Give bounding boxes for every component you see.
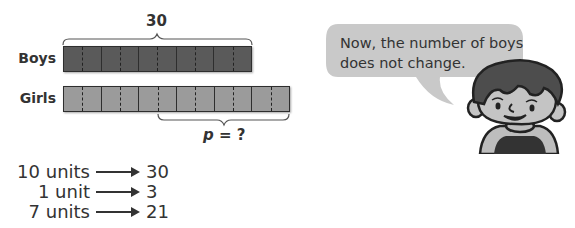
- calc-right: 21: [146, 202, 169, 222]
- boys-label: Boys: [6, 50, 56, 66]
- boys-block: [139, 47, 177, 71]
- calc-row: 10 units 30: [0, 162, 169, 182]
- unknown-p-label: p = ?: [203, 126, 245, 144]
- speech-line-1: Now, the number of boys: [340, 33, 523, 53]
- girls-block: [64, 87, 102, 111]
- arrow-right-icon: [96, 191, 138, 193]
- calc-left: 1 unit: [0, 182, 90, 202]
- bottom-brace: [155, 113, 295, 127]
- girls-block: [139, 87, 177, 111]
- girls-block: [252, 87, 289, 111]
- variable-p: p: [203, 126, 214, 144]
- boy-character-illustration: [460, 58, 570, 154]
- girls-block: [215, 87, 253, 111]
- calc-right: 30: [146, 162, 169, 182]
- arrow-right-icon: [96, 171, 138, 173]
- calc-left: 10 units: [0, 162, 90, 182]
- girls-label: Girls: [6, 90, 56, 106]
- boys-block: [64, 47, 102, 71]
- girls-block: [102, 87, 140, 111]
- boys-block: [102, 47, 140, 71]
- arrow-right-icon: [96, 211, 138, 213]
- boys-block: [177, 47, 215, 71]
- calc-row: 7 units 21: [0, 202, 169, 222]
- girls-bar: [63, 86, 290, 112]
- boys-bar: [63, 46, 252, 72]
- calc-left: 7 units: [0, 202, 90, 222]
- top-brace: [60, 32, 256, 46]
- calc-row: 1 unit 3: [0, 182, 157, 202]
- boys-block: [214, 47, 251, 71]
- girls-block: [177, 87, 215, 111]
- calc-right: 3: [146, 182, 157, 202]
- equals-question: = ?: [214, 126, 246, 144]
- total-boys-label: 30: [146, 12, 167, 30]
